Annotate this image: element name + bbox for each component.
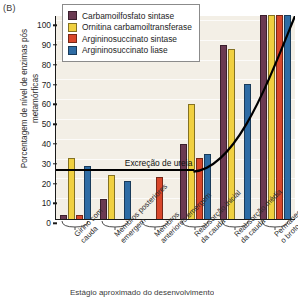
y-tick-label: 20 (42, 179, 56, 189)
y-tick-label: 100 (37, 20, 56, 30)
y-tick-label: 70 (42, 80, 56, 90)
legend: Carbamoilfosfato sintaseOrnitina carbamo… (62, 4, 200, 62)
group-brace (255, 221, 295, 232)
group-brace (135, 221, 175, 232)
legend-label: Argininosuccinato liase (82, 45, 168, 55)
y-tick-label: 90 (42, 40, 56, 50)
urea-excretion-label: Excreção de ureia (125, 158, 193, 168)
legend-swatch-icon (68, 11, 77, 20)
legend-item: Argininosuccinato sintase (68, 34, 192, 44)
group-brace (95, 221, 135, 232)
group-brace (215, 221, 255, 232)
legend-swatch-icon (68, 34, 77, 43)
legend-item: Ornitina carbamoiltransferase (68, 22, 192, 32)
y-axis-title: Porcentagem de nível de enzimas pós meta… (20, 6, 41, 192)
y-tick-label: 80 (42, 60, 56, 70)
legend-label: Argininosuccinato sintase (82, 34, 177, 44)
y-tick-label: 50 (42, 119, 56, 129)
x-axis-title: Estágio aproximado do desenvolvimento (70, 288, 214, 297)
legend-swatch-icon (68, 23, 77, 32)
y-tick-label: 60 (42, 99, 56, 109)
y-tick-label: 30 (42, 159, 56, 169)
legend-item: Argininosuccinato liase (68, 45, 192, 55)
x-axis-braces (55, 221, 295, 232)
group-brace (55, 221, 95, 232)
figure-panel-b: (B) Porcentagem de nível de enzimas pós … (0, 0, 298, 297)
legend-label: Ornitina carbamoiltransferase (82, 22, 192, 32)
legend-swatch-icon (68, 46, 77, 55)
panel-label: (B) (3, 3, 16, 13)
group-brace (175, 221, 215, 232)
y-tick-label: 10 (42, 198, 56, 208)
y-tick-label: 40 (42, 139, 56, 149)
legend-label: Carbamoilfosfato sintase (82, 11, 174, 21)
legend-item: Carbamoilfosfato sintase (68, 11, 192, 21)
